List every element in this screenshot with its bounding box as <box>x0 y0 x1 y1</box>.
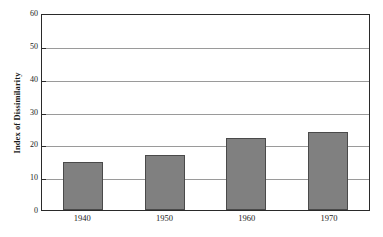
bar-1950 <box>145 155 185 210</box>
chart-title-clipped-strip <box>0 0 383 8</box>
x-axis-tick-label: 1970 <box>288 213 370 223</box>
y-axis-title: Index of Dissimilarity <box>12 72 22 153</box>
plot-area <box>41 14 370 211</box>
x-axis-tick-label: 1940 <box>41 213 123 223</box>
y-axis-tick-label: 0 <box>34 207 38 215</box>
x-axis-tick-label: 1960 <box>206 213 288 223</box>
x-axis-tick-label: 1950 <box>123 213 205 223</box>
bar-chart-figure: Index of Dissimilarity 6050403020100 194… <box>0 0 383 237</box>
bar-1960 <box>226 138 266 210</box>
bars-group <box>42 15 369 210</box>
bar-slot <box>42 15 124 210</box>
y-axis-tick-label: 30 <box>30 109 38 117</box>
y-axis-tick-label: 20 <box>30 141 38 149</box>
x-axis-tick-labels: 1940195019601970 <box>41 213 370 223</box>
bar-slot <box>206 15 288 210</box>
y-axis-tick-label: 40 <box>30 76 38 84</box>
bar-1970 <box>308 132 348 210</box>
y-axis-tick-label: 50 <box>30 43 38 51</box>
bar-slot <box>287 15 369 210</box>
y-axis-tick-labels: 6050403020100 <box>22 14 38 211</box>
y-axis-tick-label: 10 <box>30 174 38 182</box>
y-axis-tick-label: 60 <box>30 10 38 18</box>
bar-slot <box>124 15 206 210</box>
bar-1940 <box>63 162 103 210</box>
